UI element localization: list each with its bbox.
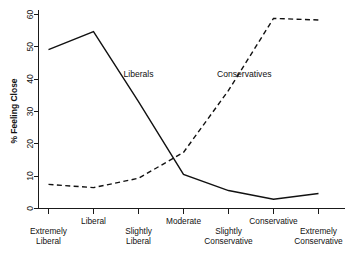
x-tick-label-extremely-conservative-line2: Conservative	[294, 236, 343, 246]
y-tick-label-10: 10	[25, 171, 35, 181]
y-tick-label-40: 40	[25, 74, 35, 84]
line-chart-plot: 60 50 40 30 20 10 0 % Feeling Close Extr…	[0, 0, 351, 260]
x-tick-label-slightly-liberal-line1: Slightly	[125, 226, 153, 236]
y-tick-label-60: 60	[25, 10, 35, 20]
series-line-conservatives	[49, 18, 319, 187]
x-tick-label-extremely-liberal-line2: Liberal	[36, 236, 61, 246]
series-line-liberals	[49, 32, 319, 200]
x-tick-label-liberal: Liberal	[81, 216, 106, 226]
x-axis-tick-labels: Extremely Liberal Liberal Slightly Liber…	[30, 216, 343, 246]
chart-container: 60 50 40 30 20 10 0 % Feeling Close Extr…	[0, 0, 351, 260]
x-tick-label-slightly-conservative-line1: Slightly	[215, 226, 243, 236]
series-annotation-conservatives: Conservatives	[217, 69, 271, 79]
y-axis-title: % Feeling Close	[9, 78, 19, 143]
x-tick-label-conservative: Conservative	[249, 216, 298, 226]
y-tick-label-20: 20	[25, 139, 35, 149]
x-tick-label-extremely-liberal-line1: Extremely	[30, 226, 68, 236]
y-tick-label-30: 30	[25, 106, 35, 116]
x-axis-ticks	[49, 209, 319, 214]
x-tick-label-extremely-conservative-line1: Extremely	[300, 226, 338, 236]
x-tick-label-slightly-conservative-line2: Conservative	[204, 236, 253, 246]
x-tick-label-moderate: Moderate	[166, 216, 201, 226]
series-annotation-liberals: Liberals	[123, 69, 153, 79]
y-tick-label-0: 0	[25, 206, 35, 211]
y-tick-label-50: 50	[25, 42, 35, 52]
y-axis-tick-labels: 60 50 40 30 20 10 0	[25, 10, 35, 211]
x-tick-label-slightly-liberal-line2: Liberal	[126, 236, 151, 246]
